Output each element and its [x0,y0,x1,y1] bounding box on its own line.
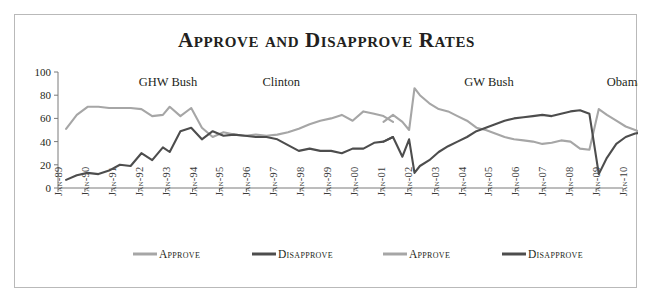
series-line-disapprove-gw-bush-obama [384,110,639,174]
legend-label-disapprove: Disapprove [528,248,583,260]
x-axis-tick-label: Jan-97 [268,167,279,196]
x-axis-tick-label: Jan-90 [80,167,91,196]
x-axis-tick-label: Jan-05 [483,167,494,196]
y-axis-tick-label: 0 [46,182,52,194]
y-axis-tick-label: 60 [40,112,52,124]
chart-plot-area: 020406080100 Jan-89Jan-90Jan-91Jan-92Jan… [15,15,638,289]
x-axis-tick-label: Jan-96 [241,167,252,196]
x-axis-tick-label: Jan-99 [322,167,333,196]
legend-label-approve: Approve [409,248,450,260]
x-axis-tick-label: Jan-98 [295,167,306,196]
y-axis-tick-label: 40 [40,136,52,148]
x-axis-tick-labels: Jan-89Jan-90Jan-91Jan-92Jan-93Jan-94Jan-… [53,166,629,196]
legend-label-approve: Approve [159,248,200,260]
approval-rates-line-chart: 020406080100 Jan-89Jan-90Jan-91Jan-92Jan… [15,15,638,289]
y-axis-tick-labels: 020406080100 [35,66,52,194]
x-axis-tick-label: Jan-02 [403,167,414,196]
x-axis-tick-label: Jan-00 [349,167,360,196]
x-axis-tick-label: Jan-08 [564,167,575,196]
legend-label-disapprove: Disapprove [278,248,333,260]
x-axis-tick-label: Jan-03 [430,167,441,196]
annotation-clinton: Clinton [262,75,300,89]
y-axis-tick-label: 100 [35,66,52,78]
president-annotations: GHW BushClintonGW BushObama [139,75,638,89]
x-axis-tick-label: Jan-95 [214,167,225,196]
x-axis-tick-label: Jan-06 [510,167,521,196]
x-axis-tick-label: Jan-04 [457,166,468,196]
chart-legend: ApproveDisapproveApproveDisapprove [133,248,583,260]
y-axis-tick-label: 20 [40,159,52,171]
x-axis-tick-label: Jan-92 [134,167,145,196]
annotation-gw-bush: GW Bush [464,75,514,89]
chart-series-lines [66,88,638,180]
y-axis-tick-label: 80 [40,89,52,101]
annotation-ghw-bush: GHW Bush [139,75,198,89]
x-axis-tick-label: Jan-07 [537,167,548,196]
chart-frame: Approve and Disapprove Rates 02040608010… [14,14,637,288]
x-axis-tick-label: Jan-10 [618,167,629,196]
x-axis-tick-label: Jan-94 [188,166,199,196]
x-axis-tick-label: Jan-93 [161,167,172,196]
x-axis-tick-label: Jan-01 [376,167,387,196]
annotation-obama: Obama [607,75,638,89]
series-line-approve-ghw-bush-clinton [66,107,393,137]
x-axis-tick-label: Jan-89 [53,167,64,196]
